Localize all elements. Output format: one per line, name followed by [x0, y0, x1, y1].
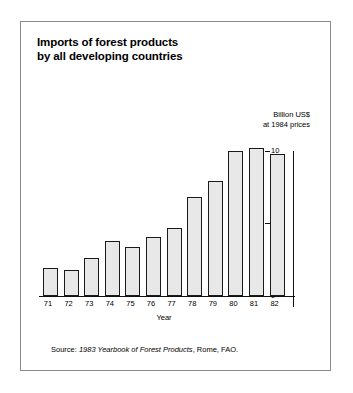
x-label-77: 77: [162, 299, 182, 309]
x-label-71: 71: [38, 299, 58, 309]
x-label-72: 72: [59, 299, 79, 309]
bar-80: [228, 151, 243, 296]
bar-76: [146, 237, 161, 296]
bar-72: [64, 270, 79, 296]
chart-title: Imports of forest products by all develo…: [37, 35, 183, 63]
bar-74: [105, 241, 120, 296]
x-axis-title: Year: [39, 313, 289, 322]
x-axis-tick-labels: 717273747576777879808182: [39, 299, 295, 311]
bar-75: [125, 247, 140, 296]
figure-frame: Imports of forest products by all develo…: [20, 21, 331, 371]
chart-title-line-1: Imports of forest products: [37, 35, 183, 49]
bar-73: [84, 258, 99, 296]
bar-71: [43, 268, 58, 296]
source-note: Source: 1983 Yearbook of Forest Products…: [51, 345, 238, 354]
bar-77: [167, 228, 182, 296]
bar-79: [208, 181, 223, 296]
x-label-79: 79: [203, 299, 223, 309]
bar-series: [39, 132, 295, 296]
source-prefix: Source:: [51, 345, 79, 354]
source-title: 1983 Yearbook of Forest Products: [79, 345, 193, 354]
x-label-74: 74: [100, 299, 120, 309]
x-label-75: 75: [120, 299, 140, 309]
chart-title-line-2: by all developing countries: [37, 49, 183, 63]
plot-area: 0510 717273747576777879808182 Year: [39, 132, 294, 297]
y-axis-unit-line-2: at 1984 prices: [263, 120, 310, 130]
x-label-76: 76: [141, 299, 161, 309]
bar-82: [270, 154, 285, 296]
bar-78: [187, 197, 202, 296]
x-axis-line: [39, 296, 295, 297]
x-label-78: 78: [182, 299, 202, 309]
source-suffix: , Rome, FAO.: [193, 345, 238, 354]
x-label-81: 81: [244, 299, 264, 309]
x-label-82: 82: [265, 299, 285, 309]
x-label-80: 80: [223, 299, 243, 309]
y-axis-unit-label: Billion US$ at 1984 prices: [263, 110, 310, 130]
bar-81: [249, 148, 264, 296]
x-label-73: 73: [79, 299, 99, 309]
y-axis-unit-line-1: Billion US$: [263, 110, 310, 120]
